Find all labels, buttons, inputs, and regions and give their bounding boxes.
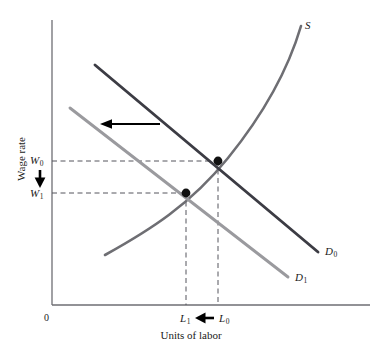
equilibrium-point-e0 xyxy=(214,157,223,166)
x-tick-l1-base: L xyxy=(180,312,186,324)
y-tick-w0-sub: 0 xyxy=(40,159,44,168)
curve-label-d1-sub: 1 xyxy=(303,276,307,285)
demand-curve-d1 xyxy=(70,108,288,277)
labor-market-chart: Wage rate W0 W1 L1 L0 0 S D0 D1 Units of… xyxy=(0,0,382,347)
curve-label-d1: D1 xyxy=(295,272,307,283)
y-tick-label-w1: W1 xyxy=(30,188,43,199)
labor-decrease-arrow xyxy=(195,313,214,324)
y-tick-w1-sub: 1 xyxy=(40,192,44,201)
x-tick-label-l0: L0 xyxy=(219,313,229,324)
y-tick-label-w0: W0 xyxy=(30,155,43,166)
demand-shift-arrow xyxy=(100,119,160,129)
chart-canvas xyxy=(0,0,382,347)
curve-label-d0-base: D xyxy=(325,245,333,257)
demand-curve-d0 xyxy=(95,65,318,252)
x-tick-l1-sub: 1 xyxy=(187,317,191,326)
y-axis-title-text: Wage rate xyxy=(15,137,27,181)
curve-label-s-base: S xyxy=(305,19,311,31)
x-tick-l0-base: L xyxy=(219,312,225,324)
supply-curve xyxy=(105,26,301,255)
equilibrium-point-e1 xyxy=(182,189,191,198)
x-axis-title: Units of labor xyxy=(0,330,382,341)
curve-label-d0: D0 xyxy=(325,246,337,257)
y-tick-w1-base: W xyxy=(30,187,39,199)
origin-label: 0 xyxy=(44,313,49,323)
curve-label-d1-base: D xyxy=(295,271,303,283)
wage-decrease-arrow xyxy=(35,170,46,188)
x-tick-l0-sub: 0 xyxy=(226,317,230,326)
curve-label-d0-sub: 0 xyxy=(333,250,337,259)
curve-label-s: S xyxy=(305,20,311,31)
x-tick-label-l1: L1 xyxy=(180,313,190,324)
y-axis-title: Wage rate xyxy=(14,128,28,190)
y-tick-w0-base: W xyxy=(30,154,39,166)
